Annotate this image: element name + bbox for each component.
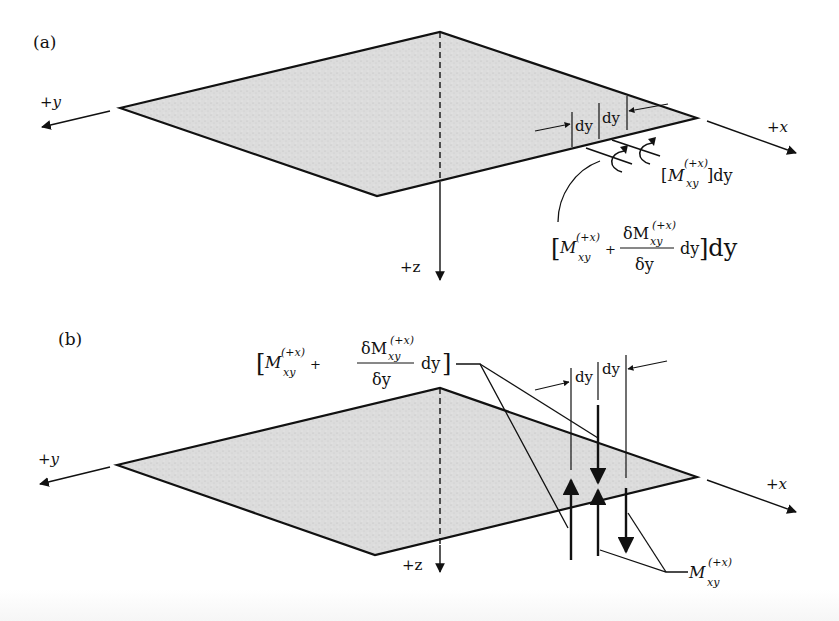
dy-label-1-a: dy [575, 117, 594, 135]
svg-text:[: [ [551, 234, 560, 262]
svg-text:xy: xy [650, 235, 663, 248]
y-axis-label-a: +y [40, 93, 62, 111]
svg-text:M: M [688, 563, 706, 582]
svg-text:δy: δy [372, 370, 391, 389]
svg-text:xy: xy [283, 366, 296, 379]
x-axis-label-a: +x [767, 118, 789, 136]
svg-text:[: [ [256, 349, 265, 377]
svg-text:(+x): (+x) [281, 346, 305, 359]
z-axis-label-b: +z [402, 556, 423, 574]
svg-text:M: M [559, 238, 577, 257]
svg-text:xy: xy [686, 177, 699, 190]
moment-curl-icon [586, 140, 660, 172]
dy-arrow-right-b [628, 361, 667, 369]
svg-text:δM: δM [361, 339, 387, 358]
leader-lines-bottom-b [600, 513, 688, 572]
moment-label-bottom-b: M (+x) xy [688, 556, 732, 589]
moment-arrowhead-icon [620, 145, 628, 154]
y-axis-label-b: +y [38, 450, 60, 468]
svg-text:M: M [264, 353, 282, 372]
moment-label-1-a: [ M (+x) xy ]dy [661, 157, 733, 190]
svg-text:dy: dy [680, 239, 699, 258]
svg-text:]: ] [442, 349, 451, 377]
panel-b-label: (b) [58, 329, 82, 349]
moment-arrowhead-icon [648, 137, 656, 146]
panel-b: (b) +z +y +x dy dy [38, 329, 796, 589]
svg-text:+: + [310, 357, 321, 372]
moment-label-top-b: [ M (+x) xy + δM (+x) xy δy dy ] [256, 334, 451, 389]
dy-label-1-b: dy [575, 368, 594, 386]
y-axis-a [42, 111, 110, 127]
svg-text:xy: xy [578, 251, 591, 264]
svg-text:(+x): (+x) [708, 556, 732, 569]
svg-text:(+x): (+x) [684, 157, 708, 170]
dy-label-2-b: dy [602, 360, 621, 378]
svg-text:(+x): (+x) [576, 231, 600, 244]
figure-canvas: (a) +z +y +x dy dy [0, 0, 839, 621]
faded-background-text [0, 590, 839, 621]
svg-text:dy: dy [421, 354, 440, 373]
svg-text:+: + [605, 242, 616, 257]
svg-text:M: M [667, 166, 685, 185]
panel-a-label: (a) [33, 32, 56, 52]
y-axis-b [40, 467, 110, 484]
plate-b [117, 388, 697, 555]
svg-text:[: [ [661, 166, 667, 185]
panel-a: (a) +z +y +x dy dy [33, 32, 796, 280]
svg-text:(+x): (+x) [652, 219, 676, 232]
dy-arrow-left-b [535, 382, 569, 390]
x-axis-label-b: +x [766, 475, 788, 493]
svg-text:xy: xy [707, 576, 720, 589]
svg-text:δy: δy [635, 255, 654, 274]
moment-label-2-a: [ M (+x) xy + δM (+x) xy δy dy ]dy [551, 219, 738, 274]
svg-text:]dy: ]dy [699, 234, 738, 262]
svg-text:xy: xy [388, 350, 401, 363]
leader-curve-a [558, 161, 600, 222]
svg-text:]dy: ]dy [707, 166, 733, 185]
svg-text:(+x): (+x) [390, 334, 414, 347]
svg-text:δM: δM [623, 224, 649, 243]
z-axis-label-a: +z [400, 258, 421, 276]
dy-label-2-a: dy [602, 109, 621, 127]
